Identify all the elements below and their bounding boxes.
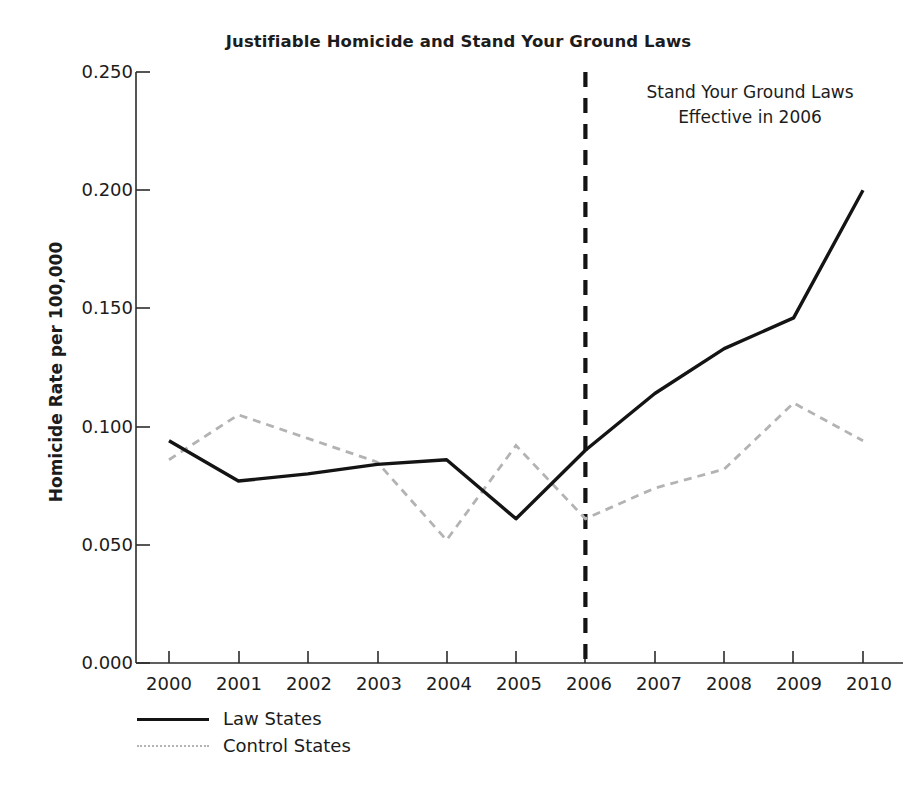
chart-legend: Law States Control States [137, 705, 537, 759]
legend-swatch-solid-icon [137, 712, 209, 726]
policy-annotation-line1: Stand Your Ground Laws [600, 80, 900, 105]
legend-swatch-dotted-icon [137, 739, 209, 753]
legend-item-control-states: Control States [137, 732, 537, 759]
policy-annotation: Stand Your Ground Laws Effective in 2006 [600, 80, 900, 129]
y-axis-ticks [136, 72, 150, 663]
chart-figure: Justifiable Homicide and Stand Your Grou… [0, 0, 917, 795]
legend-item-law-states: Law States [137, 705, 537, 732]
series-line-law-states [169, 190, 863, 519]
x-axis-ticks [169, 651, 863, 663]
legend-label-law-states: Law States [223, 708, 322, 729]
policy-annotation-line2: Effective in 2006 [600, 105, 900, 130]
legend-label-control-states: Control States [223, 735, 351, 756]
